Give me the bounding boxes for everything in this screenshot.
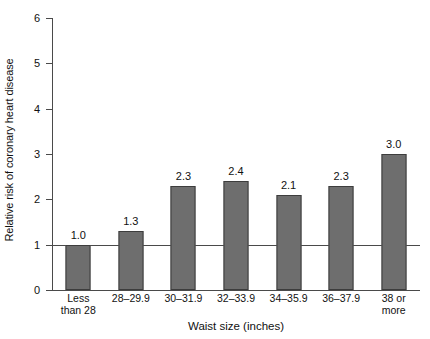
bar-group: 1.0 xyxy=(52,18,105,290)
bar-value-label: 2.1 xyxy=(281,180,296,191)
bar-group: 2.3 xyxy=(315,18,368,290)
bar-chart-figure: Relative risk of coronary heart disease … xyxy=(0,0,430,339)
x-axis-tick-labels: Lessthan 2828–29.930–31.932–33.934–35.93… xyxy=(52,293,420,323)
x-axis-tick-label: Lessthan 28 xyxy=(49,293,107,316)
x-axis-title: Waist size (inches) xyxy=(52,320,420,332)
y-axis-tick-label: 1 xyxy=(26,239,40,250)
bar-value-label: 3.0 xyxy=(386,139,401,150)
bar-group: 2.4 xyxy=(210,18,263,290)
plot-area: 1.01.32.32.42.12.33.0 xyxy=(52,18,420,290)
x-axis-tick-label: 28–29.9 xyxy=(102,293,160,305)
bar-group: 1.3 xyxy=(105,18,158,290)
bar-value-label: 2.4 xyxy=(228,166,243,177)
y-axis-title: Relative risk of coronary heart disease xyxy=(0,0,18,300)
bar-group: 2.1 xyxy=(262,18,315,290)
bar[interactable] xyxy=(118,231,143,290)
bar-value-label: 2.3 xyxy=(333,171,348,182)
y-axis-tick-label: 4 xyxy=(26,103,40,114)
x-axis-tick-label: 30–31.9 xyxy=(154,293,212,305)
y-axis-title-text: Relative risk of coronary heart disease xyxy=(3,58,15,241)
x-axis-tick-label: 32–33.9 xyxy=(207,293,265,305)
y-axis-tick-label: 2 xyxy=(26,194,40,205)
x-axis-tick-label: 38 ormore xyxy=(365,293,423,316)
y-axis-tick-label: 0 xyxy=(26,285,40,296)
y-axis-tick-label: 5 xyxy=(26,58,40,69)
bar[interactable] xyxy=(223,181,248,290)
bar[interactable] xyxy=(171,186,196,290)
bar[interactable] xyxy=(381,154,406,290)
x-axis-tick-label: 36–37.9 xyxy=(312,293,370,305)
y-axis-tick-label: 6 xyxy=(26,13,40,24)
bar[interactable] xyxy=(329,186,354,290)
y-axis-tick-label: 3 xyxy=(26,149,40,160)
bar-group: 3.0 xyxy=(367,18,420,290)
bar-value-label: 2.3 xyxy=(176,171,191,182)
bar[interactable] xyxy=(276,195,301,290)
bar-group: 2.3 xyxy=(157,18,210,290)
bar-value-label: 1.0 xyxy=(71,230,86,241)
bar-value-label: 1.3 xyxy=(123,216,138,227)
x-axis-line xyxy=(46,290,420,291)
x-axis-tick-label: 34–35.9 xyxy=(260,293,318,305)
bar[interactable] xyxy=(66,245,91,290)
